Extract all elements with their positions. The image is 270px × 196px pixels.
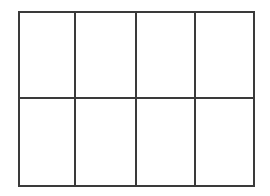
table-row xyxy=(19,98,254,186)
cell-r2c2[interactable] xyxy=(75,98,136,186)
cell-r1c3[interactable] xyxy=(136,12,195,98)
canvas xyxy=(0,0,270,196)
cell-r2c1[interactable] xyxy=(19,98,75,186)
cell-r1c2[interactable] xyxy=(75,12,136,98)
cell-r2c3[interactable] xyxy=(136,98,195,186)
cell-r1c4[interactable] xyxy=(195,12,254,98)
cell-r2c4[interactable] xyxy=(195,98,254,186)
table-row xyxy=(19,12,254,98)
empty-grid-table xyxy=(18,11,255,187)
cell-r1c1[interactable] xyxy=(19,12,75,98)
grid-body xyxy=(19,12,254,186)
